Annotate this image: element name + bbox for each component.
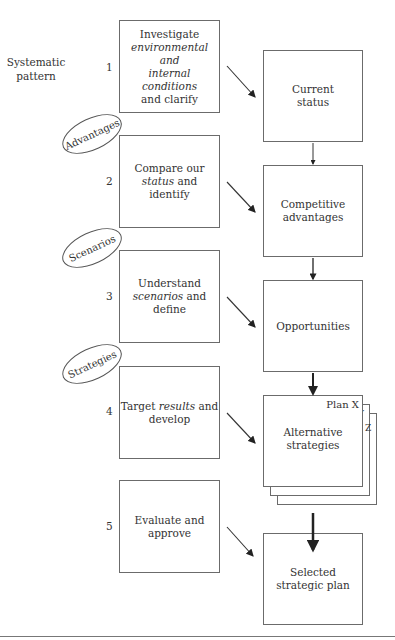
diag-arrow-3 <box>227 297 255 327</box>
diag-arrow-2 <box>227 182 255 212</box>
connector-arrows <box>0 0 395 640</box>
diag-arrow-1 <box>227 66 255 97</box>
bottom-rule <box>0 636 395 637</box>
diag-arrow-4 <box>227 413 255 443</box>
diag-arrow-5 <box>227 527 253 556</box>
